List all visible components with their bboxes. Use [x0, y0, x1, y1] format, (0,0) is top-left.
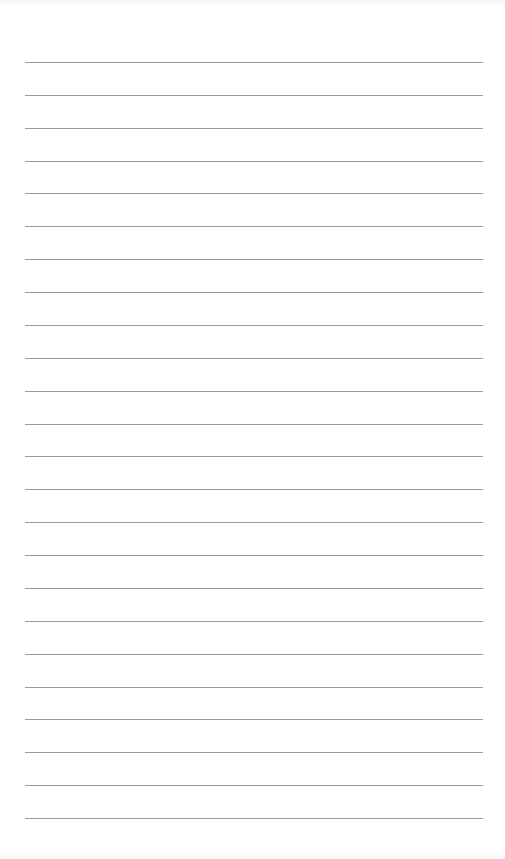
ruled-line: [25, 621, 483, 622]
ruled-line: [25, 752, 483, 753]
ruled-line: [25, 226, 483, 227]
ruled-line: [25, 358, 483, 359]
ruled-line: [25, 489, 483, 490]
bottom-edge-shadow: [0, 853, 505, 859]
ruled-line: [25, 391, 483, 392]
ruled-line: [25, 719, 483, 720]
ruled-line: [25, 161, 483, 162]
ruled-line: [25, 193, 483, 194]
ruled-line: [25, 654, 483, 655]
ruled-line: [25, 818, 483, 819]
ruled-line: [25, 292, 483, 293]
ruled-line: [25, 588, 483, 589]
top-edge-shadow: [0, 0, 505, 6]
ruled-line: [25, 785, 483, 786]
ruled-line: [25, 424, 483, 425]
ruled-line: [25, 95, 483, 96]
ruled-line: [25, 325, 483, 326]
ruled-line: [25, 62, 483, 63]
ruled-line: [25, 456, 483, 457]
ruled-line: [25, 522, 483, 523]
ruled-line: [25, 128, 483, 129]
ruled-line: [25, 687, 483, 688]
ruled-line: [25, 555, 483, 556]
ruled-line: [25, 259, 483, 260]
lined-paper-page: [0, 0, 505, 859]
